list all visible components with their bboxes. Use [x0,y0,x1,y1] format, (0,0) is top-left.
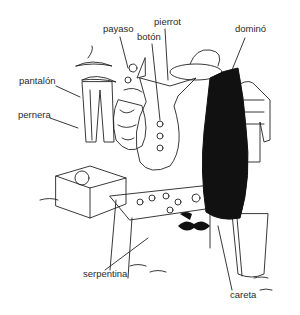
label-pierrot: pierrot [154,17,181,27]
label-careta: careta [230,290,256,300]
costume-illustration [0,0,300,315]
diagram-canvas: payaso botón pierrot dominó pantalón per… [0,0,300,315]
label-serpentina: serpentina [83,269,127,279]
label-domino: dominó [235,24,266,34]
label-boton: botón [137,32,161,42]
label-payaso: payaso [103,24,134,34]
label-pernera: pernera [18,110,51,120]
label-pantalon: pantalón [19,76,55,86]
